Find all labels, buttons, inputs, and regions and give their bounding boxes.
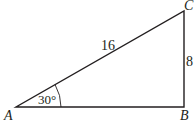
angle-label-a: 30° xyxy=(38,92,56,107)
vertex-label-c: C xyxy=(184,0,194,13)
side-label-hypotenuse: 16 xyxy=(101,38,115,53)
vertex-label-a: A xyxy=(3,108,13,122)
side-label-bc: 8 xyxy=(186,54,193,69)
triangle-diagram: A B C 16 8 30° xyxy=(0,0,196,122)
vertex-label-b: B xyxy=(180,108,189,122)
